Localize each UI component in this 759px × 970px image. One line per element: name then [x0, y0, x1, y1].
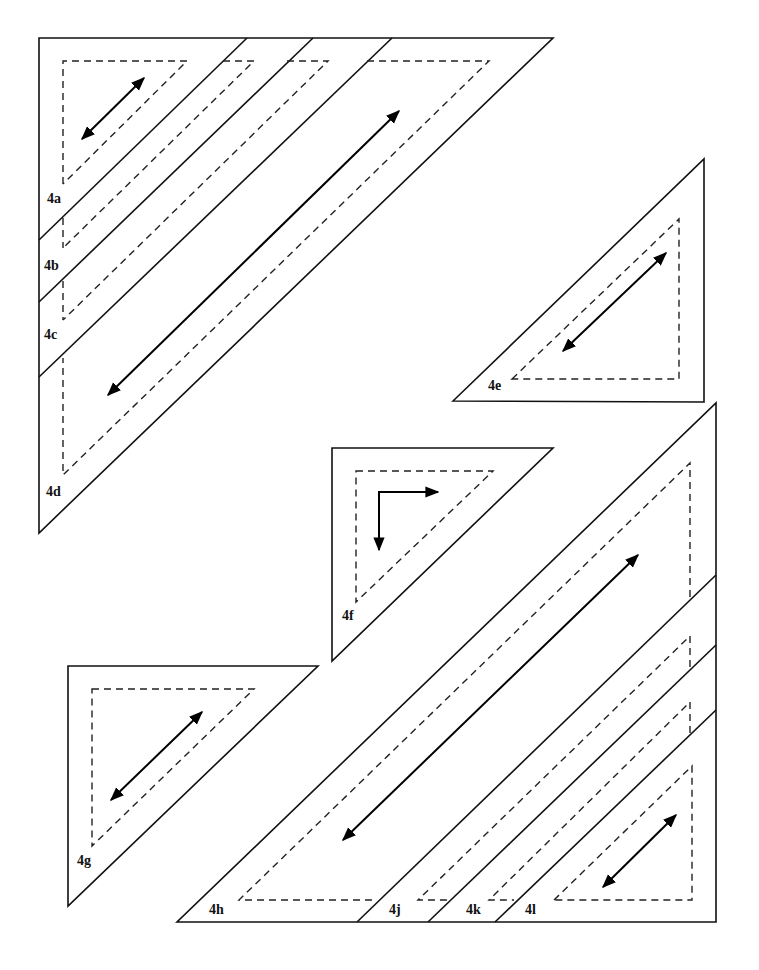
grain-arrow-4e-icon — [563, 253, 666, 351]
piece-4h: 4h — [209, 463, 690, 917]
group-bottom-right: 4h 4j 4k 4l — [177, 403, 716, 922]
piece-4k: 4k — [466, 702, 690, 917]
seam-line-4h — [239, 463, 690, 900]
grain-arrow-4l-icon — [603, 815, 676, 887]
cut-line-4k-4l — [495, 710, 716, 922]
cut-line-4c-4d — [39, 38, 392, 377]
cut-line-4b-4c — [39, 38, 313, 302]
cut-line-4a-4b — [39, 38, 247, 240]
seam-line-4e — [512, 219, 679, 379]
label-4k: 4k — [466, 902, 481, 917]
seam-line-4d — [63, 61, 489, 475]
seam-line-4g — [92, 689, 254, 846]
seam-line-4j — [418, 636, 690, 900]
cut-line-4j-4k — [428, 645, 716, 922]
grain-arrow-4d-icon — [108, 111, 399, 395]
piece-4j: 4j — [389, 636, 690, 917]
outer-triangle-top-left — [39, 38, 553, 533]
pattern-svg: 4a 4b 4c 4d 4e 4f — [0, 0, 759, 970]
piece-4g: 4g — [68, 666, 318, 906]
label-4g: 4g — [77, 853, 91, 868]
piece-4l: 4l — [525, 766, 692, 917]
label-4d: 4d — [46, 484, 61, 499]
seam-line-4l — [554, 766, 692, 900]
label-4j: 4j — [389, 902, 401, 917]
outer-triangle-4f — [332, 448, 553, 661]
seam-line-4b — [63, 61, 254, 248]
grain-arrow-4a-icon — [82, 78, 144, 139]
piece-4c: 4c — [44, 61, 328, 342]
label-4e: 4e — [488, 378, 501, 393]
label-4f: 4f — [342, 608, 354, 623]
grain-arrow-4h-icon — [343, 555, 638, 840]
piece-4a: 4a — [47, 61, 187, 206]
label-4c: 4c — [44, 327, 57, 342]
label-4l: 4l — [525, 902, 536, 917]
seam-line-4c — [63, 61, 328, 320]
seam-line-4f — [356, 471, 493, 602]
piece-4b: 4b — [44, 61, 254, 273]
seam-line-4a — [63, 61, 187, 184]
piece-4f: 4f — [332, 448, 553, 661]
group-top-left: 4a 4b 4c 4d — [39, 38, 553, 533]
label-4h: 4h — [209, 902, 224, 917]
cut-line-4h-4j — [357, 575, 716, 922]
piece-4e: 4e — [453, 159, 704, 402]
grain-arrow-4g-icon — [111, 712, 202, 800]
outer-triangle-bottom-right — [177, 403, 716, 922]
quilt-pattern-diagram: 4a 4b 4c 4d 4e 4f — [0, 0, 759, 970]
label-4a: 4a — [47, 191, 61, 206]
outer-triangle-4e — [453, 159, 704, 402]
label-4b: 4b — [44, 258, 59, 273]
grain-arrow-4f-icon — [379, 492, 438, 550]
outer-triangle-4g — [68, 666, 318, 906]
piece-4d: 4d — [46, 61, 489, 499]
